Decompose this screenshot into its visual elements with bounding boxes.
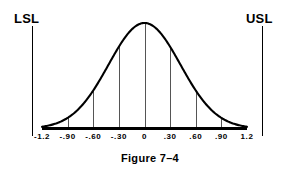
- x-tick-label: -1.2: [34, 133, 50, 141]
- x-tick-label: -.60: [85, 133, 101, 141]
- figure-caption: Figure 7–4: [0, 152, 300, 164]
- x-tick-label: -.90: [60, 133, 76, 141]
- bell-curve-path: [42, 23, 247, 127]
- gridline-group: [69, 23, 222, 129]
- x-tick-label: -.30: [111, 133, 127, 141]
- x-tick-label: 0: [142, 133, 147, 141]
- x-tick-label: .30: [164, 133, 177, 141]
- figure-container: LSL USL -1.2-.90-.60-.300.30.60.901.2 Fi…: [0, 0, 300, 174]
- x-tick-label: 1.2: [241, 133, 254, 141]
- distribution-plot: [0, 0, 300, 174]
- x-tick-label: .60: [189, 133, 202, 141]
- x-tick-label: .90: [215, 133, 228, 141]
